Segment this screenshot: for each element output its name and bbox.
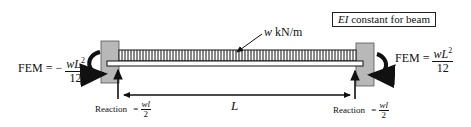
ei-constant-note: EI constant for beam [332,12,436,27]
load-pointer-arrow [237,34,262,52]
right-fem-fraction: wL2 12 [432,44,453,75]
right-fem-prefix: FEM = [395,51,432,65]
beam [107,61,363,66]
left-reaction-label: Reaction = wl 2 [95,100,151,119]
left-reaction-fraction: wl 2 [141,100,152,119]
load-unit: kN/m [272,25,302,39]
right-reaction-fraction: wl 2 [379,101,390,120]
ei-note-text: constant for beam [348,13,430,25]
span-label: L [231,98,238,114]
load-label: w kN/m [264,25,302,40]
right-fem-label: FEM = wL2 12 [395,44,453,75]
right-reaction-label: Reaction = wl 2 [333,101,389,120]
left-fem-fraction: wL2 12 [65,54,86,85]
ei-symbol: EI [338,13,348,25]
left-fem-prefix: FEM = − [18,61,62,75]
left-fem-label: FEM = − wL2 12 [18,54,86,85]
load-symbol: w [264,25,272,39]
